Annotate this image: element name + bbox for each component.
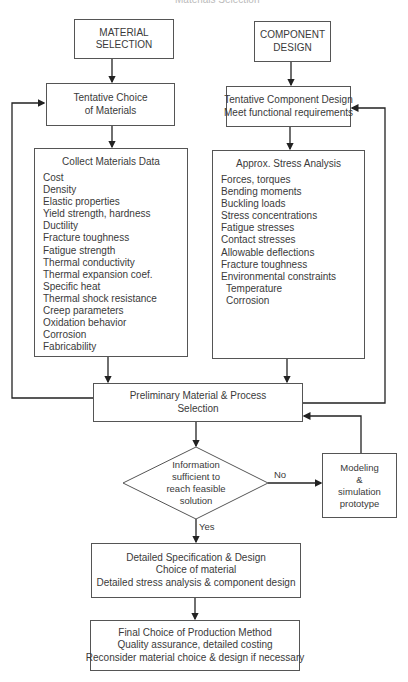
list-item: Specific heat [43, 281, 187, 293]
final-choice-line2: Quality assurance, detailed costing [117, 639, 272, 652]
list-item: Thermal shock resistance [43, 293, 187, 305]
component-design-line2: DESIGN [273, 42, 311, 55]
list-item: Fabricability [43, 341, 187, 353]
list-item: Density [43, 184, 187, 196]
list-item: Oxidation behavior [43, 317, 187, 329]
list-item: Yield strength, hardness [43, 208, 187, 220]
decision-line3: reach feasible [166, 483, 225, 495]
detailed-spec-node: Detailed Specification & Design Choice o… [91, 543, 301, 598]
list-item: Elastic properties [43, 196, 187, 208]
materials-data-title: Collect Materials Data [35, 156, 187, 167]
decision-line2: sufficient to [172, 471, 220, 483]
tentative-component-line1: Tentative Component Design [224, 94, 352, 107]
preliminary-line2: Selection [177, 403, 218, 416]
preliminary-selection-node: Preliminary Material & Process Selection [93, 383, 303, 422]
list-item: Fatigue stresses [221, 222, 364, 234]
material-selection-node: MATERIAL SELECTION [74, 19, 174, 59]
list-item: Fracture toughness [221, 259, 364, 271]
modeling-line2: & [356, 474, 362, 486]
final-choice-node: Final Choice of Production Method Qualit… [90, 620, 300, 671]
material-selection-line1: MATERIAL [99, 27, 148, 40]
list-subitem: Corrosion [221, 295, 364, 307]
list-item: Fracture toughness [43, 232, 187, 244]
list-item: Bending moments [221, 186, 364, 198]
list-item: Environmental constraints [221, 271, 364, 283]
list-item: Thermal conductivity [43, 257, 187, 269]
tentative-materials-node: Tentative Choice of Materials [46, 83, 175, 126]
detailed-spec-line2: Choice of material [156, 564, 237, 577]
detailed-spec-line1: Detailed Specification & Design [126, 552, 266, 565]
list-item: Cost [43, 172, 187, 184]
material-selection-line2: SELECTION [96, 39, 153, 52]
stress-analysis-title: Approx. Stress Analysis [213, 158, 364, 169]
list-item: Allowable deflections [221, 247, 364, 259]
component-design-line1: COMPONENT [260, 29, 325, 42]
tentative-materials-line2: of Materials [85, 105, 137, 118]
list-item: Buckling loads [221, 198, 364, 210]
preliminary-line1: Preliminary Material & Process [130, 390, 267, 403]
list-subitem: Temperature [221, 283, 364, 295]
component-design-node: COMPONENT DESIGN [254, 21, 331, 62]
no-label: No [274, 469, 286, 480]
materials-data-node: Collect Materials Data Cost Density Elas… [34, 148, 188, 357]
final-choice-line3: Reconsider material choice & design if n… [86, 652, 304, 665]
tentative-component-line2: Meet functional requirements [224, 107, 353, 120]
list-item: Corrosion [43, 329, 187, 341]
list-item: Ductility [43, 220, 187, 232]
stress-analysis-node: Approx. Stress Analysis Forces, torques … [212, 150, 365, 359]
list-item: Forces, torques [221, 174, 364, 186]
modeling-line3: simulation [338, 486, 381, 498]
modeling-node: Modeling & simulation prototype [322, 453, 397, 518]
header-fragment: Materials Selection [175, 0, 259, 5]
decision-line1: Information [172, 459, 220, 471]
tentative-component-node: Tentative Component Design Meet function… [226, 86, 351, 127]
modeling-line4: prototype [340, 498, 380, 510]
list-item: Creep parameters [43, 305, 187, 317]
stress-analysis-list: Forces, torques Bending moments Buckling… [213, 174, 364, 307]
list-item: Contact stresses [221, 234, 364, 246]
detailed-spec-line3: Detailed stress analysis & component des… [97, 577, 296, 590]
yes-label: Yes [199, 521, 215, 532]
list-item: Fatigue strength [43, 245, 187, 257]
decision-text: Information sufficient to reach feasible… [146, 457, 246, 509]
final-choice-line1: Final Choice of Production Method [118, 627, 271, 640]
list-item: Thermal expansion coef. [43, 269, 187, 281]
materials-data-list: Cost Density Elastic properties Yield st… [35, 172, 187, 353]
tentative-materials-line1: Tentative Choice [74, 92, 148, 105]
modeling-line1: Modeling [340, 462, 379, 474]
list-item: Stress concentrations [221, 210, 364, 222]
decision-line4: solution [180, 495, 213, 507]
